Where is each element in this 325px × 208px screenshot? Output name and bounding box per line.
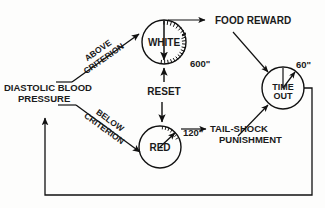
- diagram-canvas: 600" WHITE RED 120" 60" TIME OUT DIASTOL…: [0, 0, 325, 208]
- flow-diagram: 600" WHITE RED 120" 60" TIME OUT DIASTOL…: [0, 0, 325, 208]
- node-red-label: RED: [149, 142, 170, 153]
- edge-reset-label: RESET: [147, 86, 180, 97]
- node-shock-label-line1: TAIL-SHOCK: [210, 123, 268, 134]
- edge-below-criterion-labels: BELOW CRITERION: [82, 103, 132, 147]
- input-label-line2: PRESSURE: [18, 93, 70, 104]
- node-food-label: FOOD REWARD: [215, 15, 291, 26]
- node-timeout-label-line2: OUT: [274, 91, 294, 101]
- edge-above-criterion-labels: ABOVE CRITERION: [76, 33, 126, 76]
- node-white-label: WHITE: [148, 37, 181, 48]
- white-timer-label: 600": [190, 58, 210, 69]
- node-shock-label-line2: PUNISHMENT: [219, 134, 282, 145]
- timeout-timer-label: 60": [296, 59, 311, 70]
- input-label-line1: DIASTOLIC BLOOD: [4, 82, 92, 93]
- edge-food-to-timeout: [233, 32, 268, 72]
